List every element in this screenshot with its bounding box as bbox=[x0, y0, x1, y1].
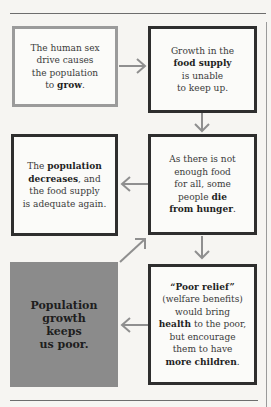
bottom-rule bbox=[10, 400, 258, 401]
text-line: us poor. bbox=[31, 338, 98, 351]
text-line: the population bbox=[30, 67, 99, 80]
box-poor-relief: “Poor relief”(welfare benefits)would bri… bbox=[148, 264, 257, 385]
text-line: to grow. bbox=[30, 79, 99, 92]
text-line: “Poor relief” bbox=[159, 281, 246, 294]
box-text: As there is notenough foodfor all, somep… bbox=[169, 153, 236, 216]
box-text: The human sexdrive causesthe populationt… bbox=[30, 42, 99, 92]
arrow-right-icon bbox=[118, 58, 148, 74]
arrow-left-icon bbox=[120, 317, 148, 333]
box-die-from-hunger: As there is notenough foodfor all, somep… bbox=[148, 134, 257, 235]
box-text: Populationgrowthkeepsus poor. bbox=[31, 299, 98, 351]
text-line: keeps bbox=[31, 325, 98, 338]
text-line: The population bbox=[23, 160, 107, 173]
text-line: from hunger. bbox=[169, 203, 236, 216]
text-line: would bring bbox=[159, 306, 246, 319]
right-rule bbox=[266, 22, 267, 407]
text-line: more children. bbox=[159, 356, 246, 369]
text-line: but encourage bbox=[159, 331, 246, 344]
text-line: is unable bbox=[171, 70, 234, 83]
box-text: The populationdecreases, andthe food sup… bbox=[23, 160, 107, 210]
arrow-down-icon bbox=[194, 113, 210, 134]
box-population-decreases: The populationdecreases, andthe food sup… bbox=[11, 134, 118, 236]
text-line: As there is not bbox=[169, 153, 236, 166]
arrow-down-icon bbox=[194, 236, 210, 262]
text-line: drive causes bbox=[30, 54, 99, 67]
text-line: the food supply bbox=[23, 185, 107, 198]
box-text: Growth in thefood supplyis unableto keep… bbox=[171, 45, 234, 95]
text-line: food supply bbox=[171, 57, 234, 70]
top-rule bbox=[10, 13, 266, 14]
arrow-left-icon bbox=[120, 176, 148, 192]
text-line: Population bbox=[31, 299, 98, 312]
text-line: decreases, and bbox=[23, 173, 107, 186]
arrow-diagonal-up-icon bbox=[118, 236, 148, 264]
text-line: is adequate again. bbox=[23, 198, 107, 211]
box-text: “Poor relief”(welfare benefits)would bri… bbox=[159, 281, 246, 369]
box-conclusion: Populationgrowthkeepsus poor. bbox=[10, 262, 118, 387]
text-line: to keep up. bbox=[171, 82, 234, 95]
text-line: for all, some bbox=[169, 178, 236, 191]
text-line: (welfare benefits) bbox=[159, 293, 246, 306]
box-sex-drive: The human sexdrive causesthe populationt… bbox=[12, 26, 118, 107]
text-line: people die bbox=[169, 191, 236, 204]
text-line: health to the poor, bbox=[159, 318, 246, 331]
text-line: Growth in the bbox=[171, 45, 234, 58]
text-line: growth bbox=[31, 312, 98, 325]
text-line: enough food bbox=[169, 166, 236, 179]
text-line: them to have bbox=[159, 343, 246, 356]
box-food-supply: Growth in thefood supplyis unableto keep… bbox=[148, 26, 257, 113]
text-line: The human sex bbox=[30, 42, 99, 55]
